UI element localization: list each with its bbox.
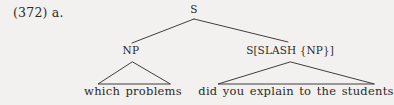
terminal-string-s-slash: did you explain to the students	[198, 86, 393, 98]
tree-node-s-slash-np: S[SLASH {NP}]	[246, 45, 334, 56]
tree-node-s: S	[190, 4, 198, 15]
triangle-sslash	[218, 62, 374, 84]
tree-node-np: NP	[123, 45, 140, 56]
terminal-string-np: which problems	[84, 86, 182, 98]
triangle-np	[98, 62, 170, 84]
branch-s-to-sslash	[194, 19, 288, 42]
branch-s-to-np	[132, 19, 194, 43]
